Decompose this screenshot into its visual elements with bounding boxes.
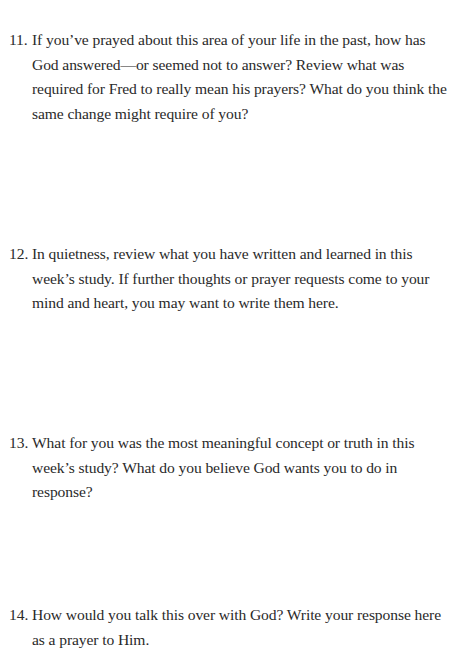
question-13: 13. What for you was the most meaningful… <box>9 431 449 505</box>
question-number: 12. <box>9 242 32 267</box>
question-text: If you’ve prayed about this area of your… <box>32 28 449 126</box>
question-text: What for you was the most meaningful con… <box>32 431 449 505</box>
question-text: In quietness, review what you have writt… <box>32 242 449 316</box>
question-number: 14. <box>9 603 32 628</box>
question-11: 11. If you’ve prayed about this area of … <box>9 28 449 126</box>
question-number: 11. <box>9 28 32 53</box>
question-14: 14. How would you talk this over with Go… <box>9 603 449 652</box>
question-number: 13. <box>9 431 32 456</box>
question-12: 12. In quietness, review what you have w… <box>9 242 449 316</box>
question-text: How would you talk this over with God? W… <box>32 603 449 652</box>
